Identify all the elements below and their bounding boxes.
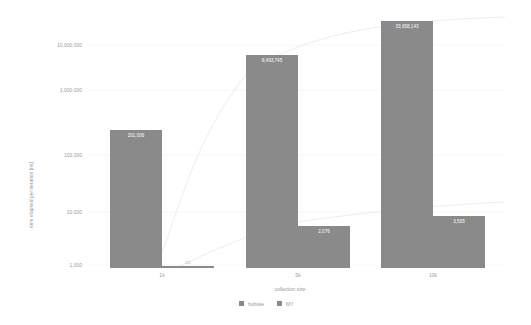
bar-chart: 10,000,000 1,000,000 100,000 10,000 1,00… <box>0 0 531 325</box>
y-tick-label-10000000: 10,000,000 <box>57 42 82 48</box>
y-axis-title: time elapsed per iteration [ns] <box>28 162 34 228</box>
x-tick-label-5k: 5k <box>295 272 301 278</box>
y-tick-label-1000000: 1,000,000 <box>60 87 82 93</box>
bar-value-label-my-1k: 111 <box>185 260 192 265</box>
bar-hubske-10k[interactable] <box>381 21 433 268</box>
bar-value-label-my-10k: 3,505 <box>453 219 465 224</box>
bar-value-label-hubske-5k: 8,493,745 <box>262 58 283 63</box>
x-tick-label-10k: 10k <box>429 272 438 278</box>
bar-hubske-5k[interactable] <box>246 55 298 268</box>
y-tick-label-100000: 100,000 <box>64 152 82 158</box>
bar-value-label-hubske-10k: 33,658,143 <box>396 24 419 29</box>
legend-swatch-my[interactable] <box>277 301 282 306</box>
bar-my-1k[interactable] <box>162 266 214 268</box>
bar-value-label-hubske-1k: 201,006 <box>128 133 145 138</box>
legend-label-my: MY <box>286 301 294 307</box>
x-tick-label-1k: 1k <box>159 272 165 278</box>
legend-label-hubske: hubske <box>248 301 264 307</box>
y-tick-label-1000: 1,000 <box>69 262 82 268</box>
y-tick-label-10000: 10,000 <box>67 209 83 215</box>
chart-svg: 10,000,000 1,000,000 100,000 10,000 1,00… <box>0 0 531 325</box>
bar-value-label-my-5k: 2,076 <box>318 229 330 234</box>
legend-swatch-hubske[interactable] <box>239 301 244 306</box>
x-axis-title: collection size <box>274 286 305 292</box>
bar-hubske-1k[interactable] <box>110 130 162 268</box>
